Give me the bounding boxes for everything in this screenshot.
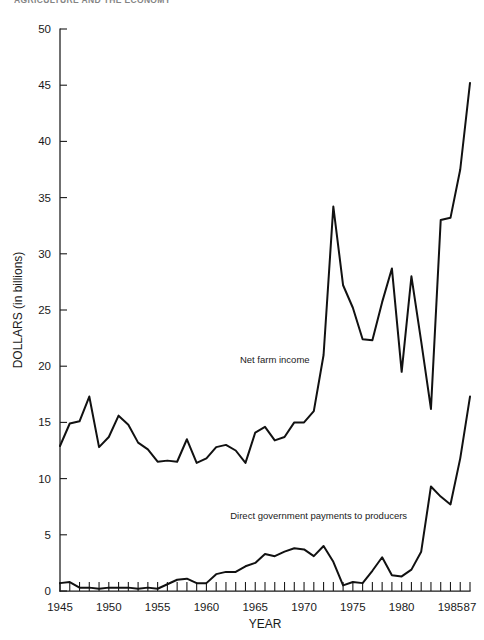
y-tick-label: 35: [38, 192, 51, 204]
y-tick-labels: 05101520253035404550: [38, 23, 51, 597]
y-axis-title: DOLLARS (in billions): [11, 252, 25, 369]
y-tick-label: 30: [38, 248, 51, 260]
x-tick-label: 1980: [389, 601, 415, 613]
x-tick-label: 1945: [47, 601, 73, 613]
y-tick-label: 40: [38, 135, 51, 147]
x-tick-marks: [60, 582, 470, 591]
x-tick-labels: 19451950195519601965197019751980198587: [47, 601, 476, 613]
annotation-net-farm-income: Net farm income: [240, 354, 310, 365]
y-tick-label: 45: [38, 79, 51, 91]
series-direct-government-payments: [60, 397, 470, 589]
y-tick-label: 10: [38, 473, 51, 485]
x-tick-label: 1975: [340, 601, 366, 613]
x-tick-label: 1955: [145, 601, 171, 613]
y-tick-marks: [60, 29, 67, 591]
chart-figure: AGRICULTURE AND THE ECONOMY 051015202530…: [0, 0, 484, 640]
annotation-direct-government-payments: Direct government payments to producers: [230, 510, 407, 521]
x-tick-label: 1960: [194, 601, 220, 613]
y-tick-label: 5: [45, 529, 51, 541]
series-net-farm-income: [60, 83, 470, 463]
x-axis-title: YEAR: [249, 617, 282, 631]
x-tick-label: 1970: [291, 601, 317, 613]
y-tick-label: 15: [38, 416, 51, 428]
y-tick-label: 20: [38, 360, 51, 372]
y-tick-label: 0: [45, 585, 51, 597]
x-tick-label: 1985: [438, 601, 464, 613]
x-tick-label: 1950: [96, 601, 122, 613]
line-chart: 05101520253035404550 1945195019551960196…: [0, 0, 484, 640]
y-tick-label: 50: [38, 23, 51, 35]
x-tick-label: 1965: [242, 601, 268, 613]
x-tick-label: 87: [464, 601, 477, 613]
y-tick-label: 25: [38, 304, 51, 316]
